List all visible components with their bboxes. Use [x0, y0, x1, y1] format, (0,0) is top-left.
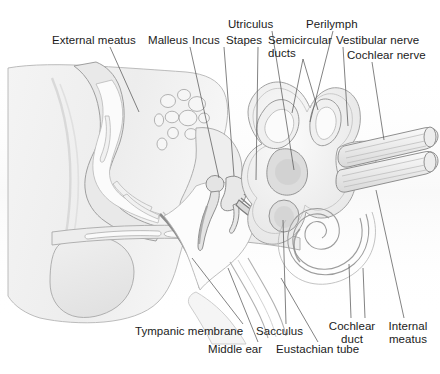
label-stapes: Stapes — [226, 34, 262, 48]
label-utriculus: Utriculus — [228, 18, 273, 32]
label-tympanic-membrane: Tympanic membrane — [135, 325, 243, 339]
label-internal-meatus-line1: Internal — [382, 320, 434, 334]
label-middle-ear: Middle ear — [208, 343, 262, 357]
label-vestibular-nerve: Vestibular nerve — [336, 34, 419, 48]
label-cochlear-duct-line2: duct — [328, 333, 376, 347]
label-semicircular-ducts-line2: ducts — [268, 47, 296, 61]
ear-anatomy-figure: External meatus Malleus Incus Stapes Utr… — [0, 0, 440, 374]
label-semicircular-ducts-line1: Semicircular — [268, 34, 332, 48]
label-sacculus: Sacculus — [256, 325, 303, 339]
label-internal-meatus-line2: meatus — [382, 333, 434, 347]
label-cochlear-duct-line1: Cochlear — [328, 320, 376, 334]
label-cochlear-nerve: Cochlear nerve — [347, 49, 426, 63]
label-incus: Incus — [192, 34, 220, 48]
label-external-meatus: External meatus — [52, 34, 136, 48]
label-perilymph: Perilymph — [306, 18, 358, 32]
utriculus-shading — [275, 159, 301, 185]
label-malleus: Malleus — [148, 34, 188, 48]
